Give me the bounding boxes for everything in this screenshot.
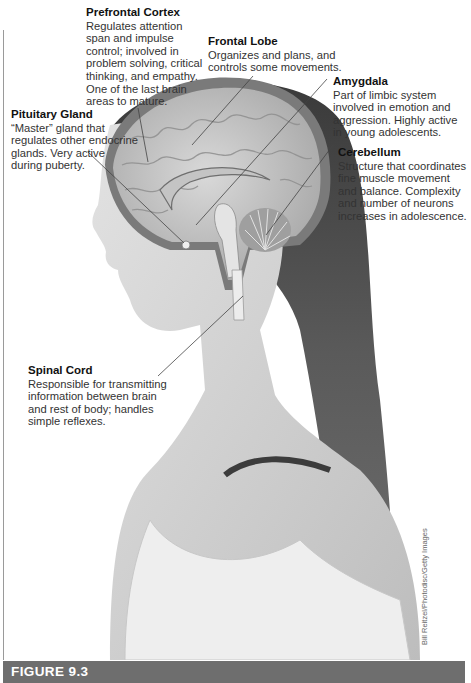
label-description: Part of limbic system involved in emotio… [333,89,468,139]
label-title: Cerebellum [338,146,471,159]
label-title: Spinal Cord [28,364,188,377]
label-cerebellum: Cerebellum Structure that coordinates fi… [338,146,471,223]
photo-credit: Bill Reitzel/Photodisc/Getty Images [420,535,430,645]
label-description: Structure that coordinates fine muscle m… [338,160,471,223]
label-title: Pituitary Gland [11,108,141,121]
label-title: Frontal Lobe [208,35,368,48]
label-pituitary-gland: Pituitary Gland “Master” gland that regu… [11,108,141,172]
label-description: Organizes and plans, and controls some m… [208,49,368,74]
figure-number: FIGURE 9.3 [11,664,89,679]
figure-caption-bar: FIGURE 9.3 [3,661,465,683]
label-amygdala: Amygdala Part of limbic system involved … [333,75,468,139]
label-title: Prefrontal Cortex [86,6,216,19]
label-description: Responsible for transmitting information… [28,378,188,428]
label-title: Amygdala [333,75,468,88]
cerebellum-shape [239,208,291,252]
label-frontal-lobe: Frontal Lobe Organizes and plans, and co… [208,35,368,74]
label-description: Regulates attention span and impulse con… [86,20,216,108]
label-spinal-cord: Spinal Cord Responsible for transmitting… [28,364,188,428]
label-prefrontal-cortex: Prefrontal Cortex Regulates attention sp… [86,6,216,108]
label-description: “Master” gland that regulates other endo… [11,122,141,172]
